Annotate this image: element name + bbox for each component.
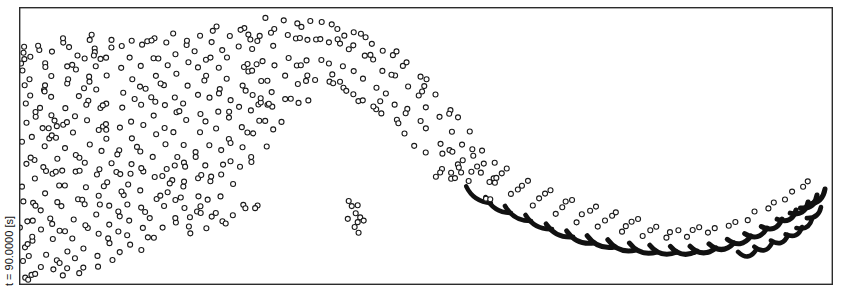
particle-marker xyxy=(82,86,87,91)
particle-marker xyxy=(245,61,250,66)
particle-marker xyxy=(120,105,125,110)
particle-marker xyxy=(515,187,520,192)
particle-marker xyxy=(771,200,776,205)
particle-marker xyxy=(480,148,485,153)
particle-marker xyxy=(392,102,397,107)
particle-marker xyxy=(73,67,78,72)
particle-marker xyxy=(43,83,48,88)
particle-marker xyxy=(127,218,132,223)
particle-marker xyxy=(346,198,351,203)
particle-marker xyxy=(209,174,214,179)
particle-marker xyxy=(349,204,354,209)
particle-marker xyxy=(184,38,189,43)
particle-marker xyxy=(530,203,535,208)
particle-marker xyxy=(253,206,258,211)
particle-marker xyxy=(299,24,304,29)
particle-marker xyxy=(237,104,242,109)
particle-marker xyxy=(71,217,76,222)
particle-marker xyxy=(712,226,717,231)
particle-marker xyxy=(63,146,68,151)
particle-marker xyxy=(418,74,423,79)
particle-marker xyxy=(360,98,365,103)
particle-marker xyxy=(238,164,243,169)
particle-marker xyxy=(125,233,130,238)
particle-marker xyxy=(198,210,203,215)
particle-marker xyxy=(104,127,109,132)
particle-marker xyxy=(263,15,268,20)
particle-marker xyxy=(331,81,336,86)
particle-marker xyxy=(595,224,600,229)
particle-marker xyxy=(82,202,87,207)
particle-marker xyxy=(726,223,731,228)
particle-marker xyxy=(224,76,229,81)
particle-marker xyxy=(172,95,177,100)
particle-marker xyxy=(182,205,187,210)
particle-marker xyxy=(24,120,29,125)
particle-marker xyxy=(449,129,454,134)
particle-marker xyxy=(82,56,87,61)
particle-marker xyxy=(27,77,32,82)
particle-marker xyxy=(72,256,77,261)
particle-marker xyxy=(260,59,265,64)
particle-marker xyxy=(139,166,144,171)
particle-marker xyxy=(438,141,443,146)
particle-marker xyxy=(126,182,131,187)
particle-marker xyxy=(28,54,33,59)
particle-marker xyxy=(801,184,806,189)
particle-marker xyxy=(288,96,293,101)
particle-marker xyxy=(49,94,54,99)
particle-marker xyxy=(160,173,165,178)
particle-marker xyxy=(263,118,268,123)
particle-marker xyxy=(519,183,524,188)
particle-marker xyxy=(355,220,360,225)
particle-marker xyxy=(369,41,374,46)
particle-marker xyxy=(456,165,461,170)
particle-marker xyxy=(227,109,232,114)
particle-marker xyxy=(187,215,192,220)
particle-scatter-plot xyxy=(19,7,833,285)
particle-marker xyxy=(70,62,75,67)
particle-marker xyxy=(460,142,465,147)
particle-marker xyxy=(475,164,480,169)
particle-marker xyxy=(55,156,60,161)
particle-marker xyxy=(240,145,245,150)
particle-marker xyxy=(268,30,273,35)
particle-marker xyxy=(251,131,256,136)
particle-marker xyxy=(603,218,608,223)
particle-marker xyxy=(345,216,350,221)
particle-marker xyxy=(151,113,156,118)
particle-marker xyxy=(351,92,356,97)
particle-marker xyxy=(362,53,367,58)
particle-marker xyxy=(305,73,310,78)
particle-marker xyxy=(494,175,499,180)
particle-marker xyxy=(219,148,224,153)
particle-marker xyxy=(51,267,56,272)
particle-marker xyxy=(87,37,92,42)
particle-marker xyxy=(243,88,248,93)
particle-marker xyxy=(207,95,212,100)
particle-marker xyxy=(84,102,89,107)
particle-marker xyxy=(570,198,575,203)
particle-marker xyxy=(53,135,58,140)
particle-marker xyxy=(266,101,271,106)
particle-marker xyxy=(492,180,497,185)
particle-marker xyxy=(171,130,176,135)
particle-marker xyxy=(129,136,134,141)
particle-marker xyxy=(447,111,452,116)
particle-marker xyxy=(403,111,408,116)
particle-marker xyxy=(57,183,62,188)
particle-marker xyxy=(319,19,324,24)
particle-marker xyxy=(285,32,290,37)
particle-marker xyxy=(338,79,343,84)
particle-marker xyxy=(23,101,28,106)
particle-marker xyxy=(174,71,179,76)
particle-marker xyxy=(28,93,33,98)
particle-marker xyxy=(153,99,158,104)
particle-marker xyxy=(745,218,750,223)
particle-marker xyxy=(228,98,233,103)
particle-marker xyxy=(57,261,62,266)
particle-marker xyxy=(96,231,101,236)
particle-marker xyxy=(29,134,34,139)
particle-marker xyxy=(134,144,139,149)
particle-marker xyxy=(39,227,44,232)
